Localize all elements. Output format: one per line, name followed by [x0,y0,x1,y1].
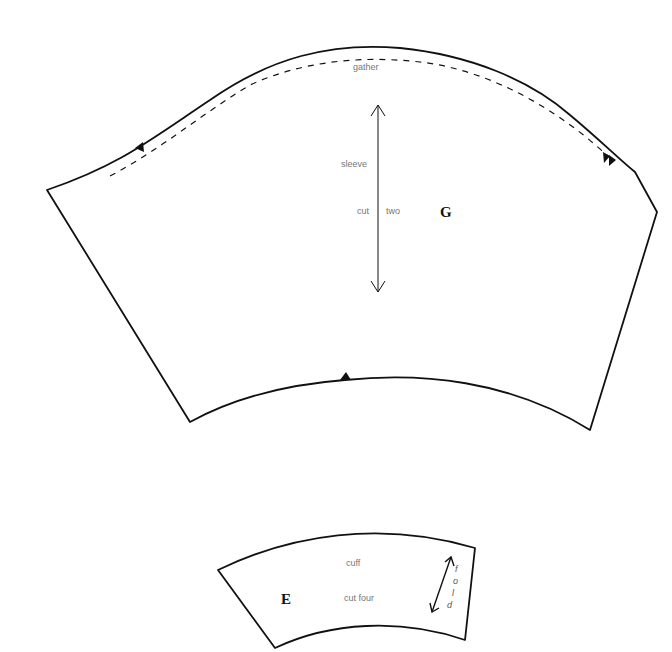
pattern-sheet: gather sleeve cut two G cuff cut four E … [0,0,672,652]
cuff-label: cuff [346,558,361,568]
cuff-outline [218,533,475,648]
sleeve-piece: gather sleeve cut two G [47,47,657,430]
fold-letter-l: l [452,588,455,598]
count-label: two [386,206,400,216]
cuff-piece: cuff cut four E f o l d [218,533,475,648]
notch-bottom-icon [340,372,351,380]
notch-right-b-icon [609,155,616,166]
fold-letter-o: o [453,576,458,586]
grainline-double-arrow-icon [371,105,385,292]
sleeve-label: sleeve [341,159,367,169]
notch-left-icon [135,142,144,152]
piece-letter-e: E [281,591,291,607]
cut-label: cut [357,206,370,216]
fold-letter-d: d [447,600,453,610]
fold-letter-f: f [455,564,459,574]
gather-label: gather [353,62,379,72]
cut-four-label: cut four [344,593,374,603]
piece-letter-g: G [440,204,452,220]
sleeve-outline [47,47,657,430]
